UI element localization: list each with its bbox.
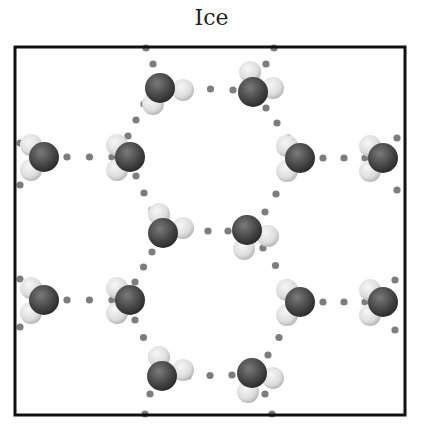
hydrogen-atom <box>172 79 194 101</box>
hydrogen-bond-dot <box>229 86 236 93</box>
hydrogen-bond-dot <box>131 278 138 285</box>
hydrogen-bond-dot <box>207 85 214 92</box>
water-molecule <box>238 61 284 107</box>
water-molecule <box>20 277 59 324</box>
hydrogen-bond-dot <box>146 390 153 397</box>
ice-lattice-diagram <box>0 0 423 430</box>
water-molecule <box>276 135 315 182</box>
oxygen-atom <box>232 215 262 245</box>
oxygen-atom <box>115 285 145 315</box>
hydrogen-bond-dot <box>140 263 147 270</box>
water-molecule <box>142 73 194 115</box>
hydrogen-bond-layer <box>16 44 400 417</box>
hydrogen-bond-dot <box>140 334 147 341</box>
hydrogen-bond-dot <box>16 181 23 188</box>
hydrogen-bond-dot <box>16 323 23 330</box>
oxygen-atom <box>29 285 59 315</box>
hydrogen-bond-dot <box>228 371 235 378</box>
oxygen-atom <box>148 218 178 248</box>
hydrogen-bond-dot <box>204 227 211 234</box>
hydrogen-bond-dot <box>149 60 156 67</box>
hydrogen-bond-dot <box>393 186 400 193</box>
hydrogen-bond-dot <box>86 296 93 303</box>
hydrogen-bond-dot <box>148 248 155 255</box>
hydrogen-bond-dot <box>272 262 279 269</box>
hydrogen-bond-dot <box>391 276 398 283</box>
water-molecule <box>276 279 315 326</box>
water-molecule <box>20 134 59 181</box>
oxygen-atom <box>145 73 175 103</box>
hydrogen-bond-dot <box>261 208 268 215</box>
oxygen-atom <box>237 358 267 388</box>
hydrogen-bond-dot <box>63 153 70 160</box>
hydrogen-bond-dot <box>63 296 70 303</box>
hydrogen-bond-dot <box>131 316 138 323</box>
water-molecule <box>232 215 279 260</box>
water-molecule <box>237 358 284 403</box>
oxygen-atom <box>238 77 268 107</box>
hydrogen-bond-dot <box>132 172 139 179</box>
hydrogen-bond-dot <box>391 326 398 333</box>
water-molecule <box>147 346 194 391</box>
oxygen-atom <box>115 142 145 172</box>
hydrogen-bond-dot <box>273 119 280 126</box>
water-molecule <box>148 203 194 248</box>
hydrogen-bond-dot <box>319 154 326 161</box>
hydrogen-bond-dot <box>262 60 269 67</box>
oxygen-atom <box>285 143 315 173</box>
hydrogen-bond-dot <box>264 351 271 358</box>
hydrogen-bond-dot <box>319 298 326 305</box>
oxygen-atom <box>285 287 315 317</box>
hydrogen-bond-dot <box>340 298 347 305</box>
oxygen-atom <box>147 361 177 391</box>
hydrogen-bond-dot <box>140 189 147 196</box>
hydrogen-bond-dot <box>393 134 400 141</box>
hydrogen-bond-dot <box>262 104 269 111</box>
oxygen-atom <box>368 143 398 173</box>
hydrogen-bond-dot <box>261 390 268 397</box>
oxygen-atom <box>368 287 398 317</box>
oxygen-atom <box>29 142 59 172</box>
hydrogen-bond-dot <box>206 372 213 379</box>
hydrogen-bond-dot <box>86 153 93 160</box>
hydrogen-bond-dot <box>340 154 347 161</box>
hydrogen-bond-dot <box>275 334 282 341</box>
hydrogen-bond-dot <box>224 227 231 234</box>
hydrogen-bond-dot <box>132 116 139 123</box>
hydrogen-bond-dot <box>272 190 279 197</box>
